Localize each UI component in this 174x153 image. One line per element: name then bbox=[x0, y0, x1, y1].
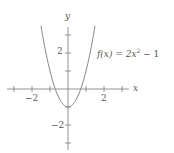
y-tick-label-2: 2 bbox=[57, 47, 63, 56]
x-tick-label-neg2: −2 bbox=[25, 94, 38, 103]
function-label-rhs: − 1 bbox=[140, 49, 159, 59]
x-tick-label-2: 2 bbox=[101, 94, 107, 103]
function-label: f(x) = 2x2 − 1 bbox=[97, 48, 159, 59]
x-axis-label: x bbox=[133, 84, 138, 93]
axes bbox=[7, 27, 129, 150]
function-plot bbox=[0, 0, 174, 153]
y-tick-label-neg2: −2 bbox=[51, 121, 64, 130]
function-label-lhs: f(x) = 2x bbox=[97, 49, 137, 59]
y-axis-label: y bbox=[65, 12, 70, 21]
